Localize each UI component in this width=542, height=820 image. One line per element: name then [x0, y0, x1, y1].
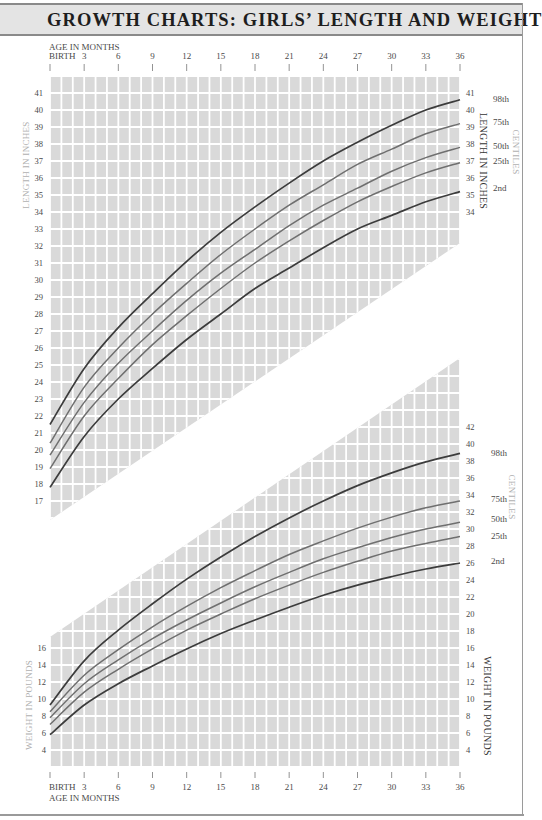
- weight-tick-right: 36: [466, 473, 475, 483]
- weight-tick-left: 4: [42, 745, 47, 755]
- length-tick-left: 27: [35, 326, 44, 336]
- length-tick-left: 26: [35, 343, 44, 353]
- centile-label-75th: 75th: [493, 117, 510, 127]
- bottom-axis-title: AGE IN MONTHS: [49, 793, 120, 803]
- weight-tick-right: 30: [466, 524, 475, 534]
- weight-tick-right: 28: [466, 541, 475, 551]
- weight-tick-right: 14: [466, 660, 475, 670]
- weight-tick-right: 32: [466, 507, 475, 517]
- length-tick-left: 38: [35, 139, 44, 149]
- centile-label-2nd: 2nd: [491, 556, 505, 566]
- top-axis-tick-label: 21: [285, 51, 294, 61]
- top-axis-tick-label: 15: [216, 51, 226, 61]
- length-tick-right: 40: [466, 105, 475, 115]
- length-tick-left: 30: [35, 275, 44, 285]
- weight-tick-right: 8: [466, 711, 470, 721]
- weight-tick-right: 40: [466, 439, 475, 449]
- length-tick-right: 34: [466, 207, 475, 217]
- centile-label-50th: 50th: [493, 141, 510, 151]
- top-axis-tick-label: BIRTH: [49, 51, 76, 61]
- weight-tick-right: 42: [466, 422, 475, 432]
- top-axis-tick-label: 6: [116, 51, 121, 61]
- centile-label-2nd: 2nd: [493, 183, 507, 193]
- top-axis-tick-label: 3: [82, 51, 87, 61]
- length-tick-left: 34: [35, 207, 44, 217]
- centile-label-25th: 25th: [491, 531, 508, 541]
- length-tick-left: 32: [35, 241, 44, 251]
- length-tick-left: 28: [35, 309, 44, 319]
- length-ylabel-left: LENGTH IN INCHES: [21, 121, 31, 208]
- weight-tick-left: 6: [42, 728, 46, 738]
- length-tick-right: 38: [466, 139, 475, 149]
- centile-label-75th: 75th: [491, 494, 508, 504]
- bottom-axis-tick-label: 9: [150, 782, 155, 792]
- weight-tick-left: 14: [38, 660, 47, 670]
- length-tick-left: 29: [35, 292, 44, 302]
- weight-tick-right: 12: [466, 677, 475, 687]
- bottom-axis-tick-label: 30: [387, 782, 397, 792]
- top-axis-title: AGE IN MONTHS: [49, 42, 120, 52]
- top-axis-tick-label: 18: [251, 51, 261, 61]
- bottom-axis-tick-label: 36: [456, 782, 466, 792]
- bottom-axis-tick-label: 15: [216, 782, 226, 792]
- length-tick-right: 41: [466, 88, 475, 98]
- bottom-axis-tick-label: BIRTH: [49, 782, 76, 792]
- length-tick-right: 37: [466, 156, 475, 166]
- weight-tick-left: 10: [38, 694, 47, 704]
- weight-tick-right: 16: [466, 643, 475, 653]
- weight-tick-right: 34: [466, 490, 475, 500]
- length-tick-left: 22: [35, 411, 44, 421]
- length-tick-left: 35: [35, 190, 44, 200]
- length-tick-left: 17: [35, 496, 44, 506]
- centile-label-98th: 98th: [491, 448, 508, 458]
- length-tick-left: 24: [35, 377, 44, 387]
- bottom-axis-tick-label: 12: [182, 782, 191, 792]
- top-axis-tick-label: 36: [456, 51, 466, 61]
- length-tick-left: 37: [35, 156, 44, 166]
- weight-tick-right: 38: [466, 456, 475, 466]
- centile-label-50th: 50th: [491, 514, 508, 524]
- length-tick-left: 31: [35, 258, 44, 268]
- weight-centiles-label: CENTILES: [507, 475, 517, 520]
- length-tick-left: 36: [35, 173, 44, 183]
- length-tick-left: 23: [35, 394, 44, 404]
- centile-label-25th: 25th: [493, 156, 510, 166]
- length-tick-left: 39: [35, 122, 44, 132]
- weight-tick-right: 26: [466, 558, 475, 568]
- top-axis-tick-label: 9: [150, 51, 155, 61]
- weight-ylabel-right: WEIGHT IN POUNDS: [482, 656, 493, 756]
- weight-tick-right: 10: [466, 694, 475, 704]
- length-tick-left: 33: [35, 224, 44, 234]
- centile-label-98th: 98th: [493, 94, 510, 104]
- length-tick-right: 39: [466, 122, 475, 132]
- length-tick-right: 35: [466, 190, 475, 200]
- weight-tick-right: 18: [466, 626, 475, 636]
- length-tick-left: 18: [35, 479, 44, 489]
- length-tick-left: 21: [35, 428, 44, 438]
- top-axis-tick-label: 27: [353, 51, 363, 61]
- weight-tick-right: 24: [466, 575, 475, 585]
- bottom-axis-tick-label: 27: [353, 782, 363, 792]
- length-tick-left: 41: [35, 88, 44, 98]
- bottom-axis-tick-label: 33: [421, 782, 431, 792]
- bottom-axis-tick-label: 21: [285, 782, 294, 792]
- weight-tick-left: 8: [42, 711, 46, 721]
- length-centiles-label: CENTILES: [511, 130, 521, 175]
- top-axis-tick-label: 33: [421, 51, 431, 61]
- weight-tick-right: 4: [466, 745, 471, 755]
- bottom-axis-tick-label: 24: [319, 782, 329, 792]
- weight-tick-right: 22: [466, 592, 475, 602]
- length-tick-right: 36: [466, 173, 475, 183]
- weight-tick-right: 20: [466, 609, 475, 619]
- weight-ylabel-left: WEIGHT IN POUNDS: [24, 660, 34, 750]
- weight-tick-left: 12: [38, 677, 47, 687]
- top-axis-tick-label: 24: [319, 51, 329, 61]
- weight-tick-left: 16: [38, 643, 47, 653]
- bottom-axis-tick-label: 18: [251, 782, 261, 792]
- length-tick-left: 40: [35, 105, 44, 115]
- top-axis-tick-label: 30: [387, 51, 397, 61]
- bottom-axis-tick-label: 3: [82, 782, 87, 792]
- bottom-axis-tick-label: 6: [116, 782, 121, 792]
